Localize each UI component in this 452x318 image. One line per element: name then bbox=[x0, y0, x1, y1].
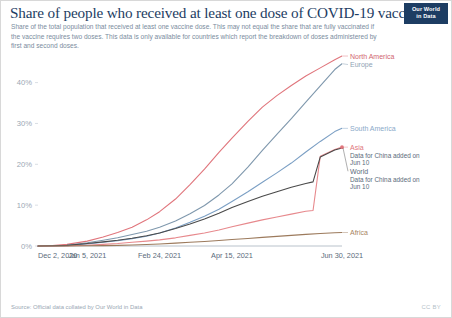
series-line-world[interactable] bbox=[38, 148, 342, 246]
line-chart: 0%10%20%30%40%Dec 2, 2020Jan 5, 2021Feb … bbox=[0, 48, 452, 280]
plot-area: 0%10%20%30%40%Dec 2, 2020Jan 5, 2021Feb … bbox=[0, 48, 452, 280]
legend-leader-line bbox=[343, 148, 348, 171]
y-axis-tick-label: 40% bbox=[17, 78, 32, 87]
y-axis-tick-label: 30% bbox=[17, 119, 32, 128]
x-axis-tick-label: Jan 5, 2021 bbox=[68, 251, 106, 260]
x-axis-tick-label: Apr 15, 2021 bbox=[211, 251, 253, 260]
legend-label-africa[interactable]: Africa bbox=[350, 229, 368, 236]
source-note: Source: Official data collated by Our Wo… bbox=[11, 304, 142, 310]
legend-label-world[interactable]: World bbox=[350, 168, 368, 175]
x-axis-tick-label: Jun 30, 2021 bbox=[321, 251, 363, 260]
legend-annotation-line2: Jun 10 bbox=[350, 159, 370, 166]
y-axis-tick-label: 10% bbox=[17, 201, 32, 210]
chart-subtitle: Share of the total population that recei… bbox=[11, 22, 383, 51]
x-axis-tick-label: Feb 24, 2021 bbox=[138, 251, 181, 260]
legend-label-europe[interactable]: Europe bbox=[350, 61, 373, 69]
owid-logo[interactable]: Our World in Data bbox=[404, 3, 448, 24]
logo-line-2: in Data bbox=[404, 13, 448, 20]
y-axis-tick-label: 20% bbox=[17, 160, 32, 169]
legend-annotation-line1: Data for China added on bbox=[350, 176, 420, 183]
legend-label-asia[interactable]: Asia bbox=[350, 144, 364, 151]
legend-annotation-line1: Data for China added on bbox=[350, 152, 420, 159]
legend-annotation-line2: Jun 10 bbox=[350, 183, 370, 190]
legend-label-south-america[interactable]: South America bbox=[350, 125, 396, 132]
license-note[interactable]: CC BY bbox=[421, 304, 441, 310]
legend-leader-line bbox=[343, 64, 348, 65]
logo-line-1: Our World bbox=[412, 6, 440, 12]
y-axis-tick-label: 0% bbox=[21, 242, 32, 251]
series-line-asia[interactable] bbox=[38, 147, 342, 246]
series-line-north-america[interactable] bbox=[38, 56, 342, 246]
series-line-south-america[interactable] bbox=[38, 128, 342, 246]
page-title: Share of people who received at least on… bbox=[10, 4, 395, 22]
legend-label-north-america[interactable]: North America bbox=[350, 53, 394, 60]
series-line-europe[interactable] bbox=[38, 64, 342, 246]
